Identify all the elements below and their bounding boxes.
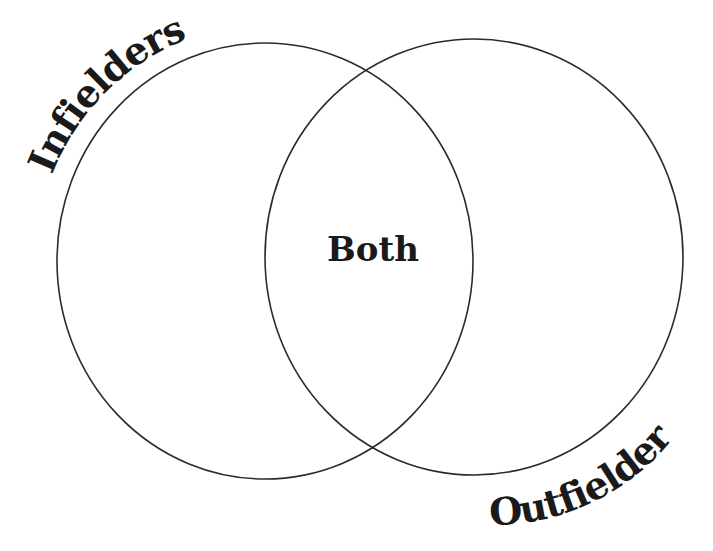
venn-diagram: Infielders Outfielders Both	[0, 0, 713, 551]
both-label: Both	[327, 229, 419, 269]
infielders-label-text: Infielders	[19, 6, 191, 179]
infielders-label: Infielders	[19, 6, 191, 179]
